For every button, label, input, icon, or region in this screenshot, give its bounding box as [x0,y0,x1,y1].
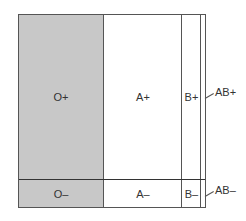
cell-b-negative: B– [182,180,201,207]
cell-b-positive: B+ [182,15,201,179]
cell-a-negative: A– [104,180,182,207]
label-a-positive: A+ [136,91,150,103]
label-a-negative: A– [136,188,149,200]
cell-ab-negative [201,180,206,207]
label-o-negative: O– [54,188,69,200]
cell-o-positive: O+ [19,15,103,179]
leader-line-ab-positive [205,93,214,99]
cell-a-positive: A+ [104,15,182,179]
label-b-positive: B+ [185,91,199,103]
label-ab-positive: AB+ [215,86,236,98]
leader-line-ab-negative [205,191,214,197]
label-ab-negative: AB– [215,184,236,196]
mosaic-chart: O+ O– A+ A– B+ B– [18,14,206,208]
label-b-negative: B– [185,188,198,200]
cell-o-negative: O– [19,180,103,207]
divider-rh [19,179,205,180]
label-o-positive: O+ [54,91,69,103]
